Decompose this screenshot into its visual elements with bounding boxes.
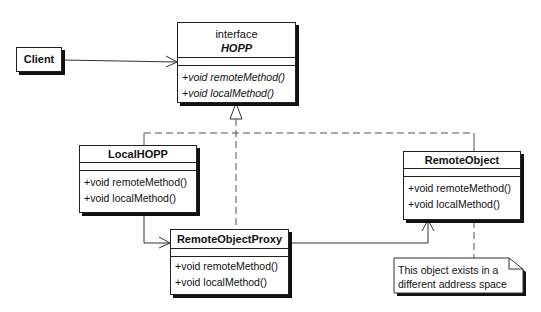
operation: +void remoteMethod() (175, 258, 288, 274)
operation: +void localMethod() (175, 274, 288, 290)
operation: +void localMethod() (84, 190, 196, 206)
operation: +void remoteMethod() (182, 69, 295, 85)
operations-compartment: +void remoteMethod() +void localMethod() (178, 66, 295, 101)
client-to-hopp-line (62, 60, 177, 62)
note-text[interactable]: This object exists in a different addres… (394, 260, 512, 293)
class-name: RemoteObjectProxy (171, 230, 288, 249)
operations-compartment: +void remoteMethod() +void localMethod() (171, 257, 288, 290)
class-remoteobjectproxy[interactable]: RemoteObjectProxy +void remoteMethod() +… (170, 229, 289, 295)
operation: +void remoteMethod() (408, 180, 520, 196)
attributes-compartment (80, 163, 196, 171)
operations-compartment: +void remoteMethod() +void localMethod() (80, 171, 196, 206)
class-remoteobject[interactable]: RemoteObject +void remoteMethod() +void … (403, 151, 521, 220)
attributes-compartment (171, 249, 288, 257)
class-name: Client (17, 48, 61, 71)
attributes-compartment (404, 169, 520, 177)
note-line: different address space (398, 277, 512, 291)
attributes-compartment (178, 58, 295, 66)
localhopp-to-proxy-line (144, 213, 170, 243)
interface-hopp[interactable]: interface HOPP +void remoteMethod() +voi… (177, 22, 296, 103)
operations-compartment: +void remoteMethod() +void localMethod() (404, 177, 520, 212)
operation: +void localMethod() (408, 196, 520, 212)
class-client[interactable]: Client (16, 47, 62, 72)
class-localhopp[interactable]: LocalHOPP +void remoteMethod() +void loc… (79, 145, 197, 213)
proxy-to-remoteobject-line (291, 220, 428, 243)
realization-triangle (230, 103, 242, 119)
class-name: LocalHOPP (80, 146, 196, 163)
class-name: HOPP (178, 40, 295, 58)
note-line: This object exists in a (398, 263, 512, 277)
class-name: RemoteObject (404, 152, 520, 169)
operation: +void remoteMethod() (84, 174, 196, 190)
stereotype-label: interface (178, 23, 295, 40)
operation: +void localMethod() (182, 85, 295, 101)
